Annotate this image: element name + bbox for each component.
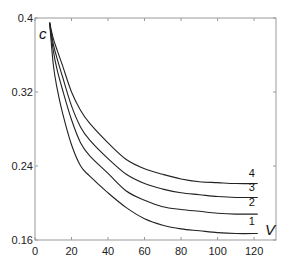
y-axis-label: c: [39, 25, 47, 42]
curves: [50, 23, 258, 234]
x-tick-label: 20: [65, 245, 77, 257]
x-tick-label: 100: [208, 245, 226, 257]
chart: 0.160.240.320.4 020406080100120 1234 c V: [0, 0, 292, 270]
curve-2: [50, 23, 258, 215]
curve-labels: 1234: [249, 167, 255, 227]
axis-ticks: [35, 18, 276, 240]
curve-label-4: 4: [249, 167, 255, 179]
plot-frame: [35, 18, 276, 240]
x-tick-label: 120: [245, 245, 263, 257]
x-tick-label: 80: [175, 245, 187, 257]
x-axis-label: V: [265, 221, 277, 238]
x-tick-labels: 020406080100120: [32, 245, 263, 257]
x-tick-label: 0: [32, 245, 38, 257]
x-tick-label: 60: [138, 245, 150, 257]
y-tick-label: 0.16: [12, 234, 33, 246]
y-tick-label: 0.24: [12, 160, 33, 172]
curve-4: [50, 23, 258, 184]
y-tick-label: 0.4: [18, 12, 33, 24]
y-tick-labels: 0.160.240.320.4: [12, 12, 33, 246]
y-tick-label: 0.32: [12, 86, 33, 98]
curve-label-2: 2: [249, 196, 255, 208]
curve-label-3: 3: [249, 181, 255, 193]
curve-label-1: 1: [249, 215, 255, 227]
x-tick-label: 40: [102, 245, 114, 257]
